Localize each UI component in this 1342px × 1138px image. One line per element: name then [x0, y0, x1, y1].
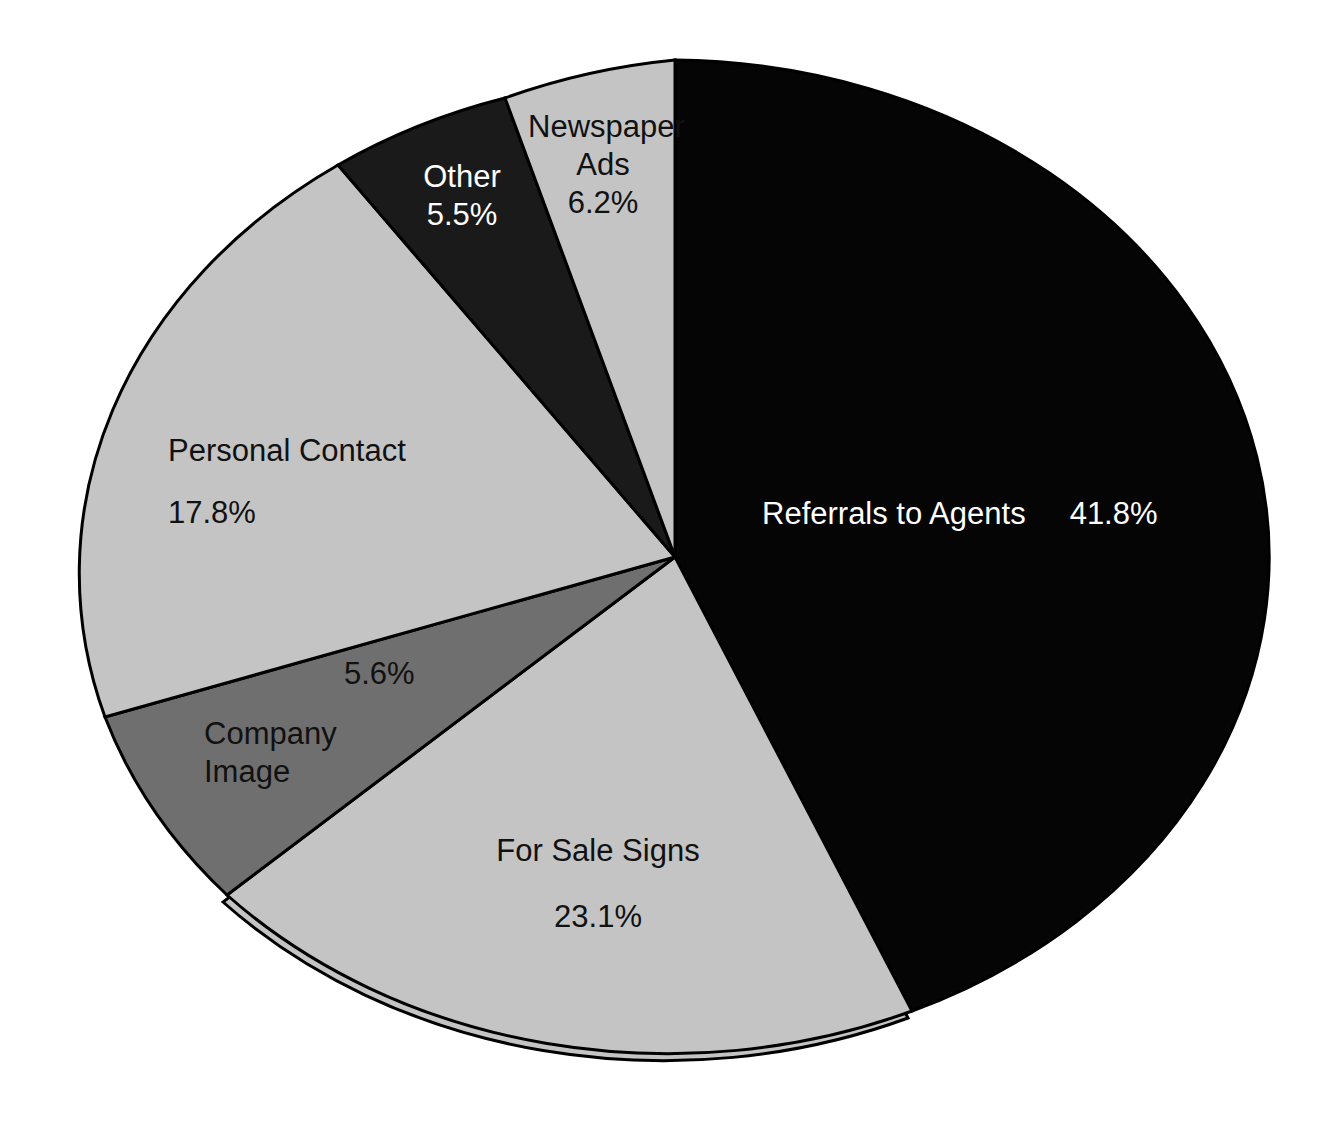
pie-chart-graphic [0, 0, 1342, 1138]
pie-chart-page: Referrals to Agents41.8% Newspaper Ads 6… [0, 0, 1342, 1138]
